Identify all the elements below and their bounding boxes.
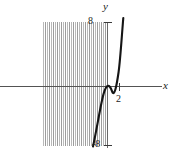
plot-canvas (0, 0, 174, 154)
y-axis-label: y (103, 1, 108, 12)
x-tick-label-2: 2 (116, 94, 121, 104)
x-axis-label: x (163, 80, 168, 91)
graph-figure: y x 8 -8 2 (0, 0, 174, 154)
y-tick-label-minus-8: -8 (92, 139, 100, 149)
y-tick-label-8: 8 (88, 16, 93, 26)
